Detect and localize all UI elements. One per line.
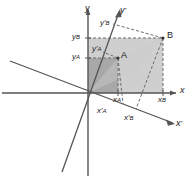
tick-y-A-label: yA	[72, 53, 80, 61]
y-axis-label: y	[85, 4, 90, 13]
x-prime-mark: '	[181, 119, 183, 128]
diagram-vector-layer	[0, 0, 194, 177]
dash-B-to-y-prime-axis	[113, 24, 163, 38]
tick-x-prime-B-label: x'B	[124, 114, 134, 122]
x-prime-axis-arrowhead	[166, 120, 175, 126]
point-B-label: B	[167, 31, 173, 40]
x-prime-axis-label: x'	[176, 119, 182, 128]
tick-x-A-sub: A	[117, 97, 121, 103]
x-axis-label-text: x	[180, 85, 185, 95]
point-A-label: A	[121, 51, 127, 60]
tick-y-A-sub: A	[76, 54, 80, 60]
point-A-label-text: A	[121, 50, 127, 60]
tick-y-B-sub: B	[76, 34, 80, 40]
tick-x-B-label: xB	[158, 96, 166, 104]
x-axis-label: x	[180, 86, 185, 95]
tick-x-prime-B-sub: B	[130, 115, 134, 121]
y-axis-label-text: y	[85, 3, 90, 13]
tick-x-prime-A-label: x'A	[97, 107, 107, 115]
point-B-label-text: B	[167, 30, 173, 40]
point-B-marker	[161, 36, 164, 39]
point-A-marker	[116, 56, 119, 59]
tick-y-B-label: yB	[72, 33, 80, 41]
tick-x-B-sub: B	[162, 97, 166, 103]
tick-y-prime-B-sub: B	[106, 20, 110, 26]
y-prime-axis-label: y'	[120, 6, 126, 15]
y-prime-mark: '	[125, 6, 127, 15]
tick-y-prime-B-label: y'B	[100, 19, 110, 27]
tick-x-prime-A-sub: A	[103, 108, 107, 114]
tick-y-prime-A-label: y'A	[92, 45, 102, 53]
tick-y-prime-A-sub: A	[98, 46, 102, 52]
tick-x-A-label: xA	[113, 96, 121, 104]
x-axis-arrowhead	[170, 91, 176, 96]
diagram-canvas: y y' x x' A B yB yA y'B y'A xA xB x'A x'…	[0, 0, 194, 177]
